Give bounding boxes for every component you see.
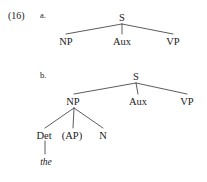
branch-b-np-det <box>45 108 74 128</box>
node-a-vp: VP <box>166 37 179 48</box>
node-b-det: Det <box>36 131 51 142</box>
branch-b-s-vp <box>136 83 187 94</box>
syntax-tree-figure: (16) a. S NP Aux VP b. S NP Aux VP Det (… <box>0 0 207 182</box>
node-b-np: NP <box>66 97 79 108</box>
node-b-n: N <box>99 131 107 142</box>
node-a-np: NP <box>59 37 72 48</box>
item-letter-a: a. <box>40 11 46 20</box>
branch-b-np-ap <box>73 108 74 128</box>
branch-a-s-vp <box>122 24 173 34</box>
node-b-vp: VP <box>180 97 193 108</box>
item-letter-b: b. <box>40 71 46 80</box>
branch-b-np-n <box>74 108 103 128</box>
node-b-aux: Aux <box>129 97 147 108</box>
terminal-word-the: the <box>40 158 52 168</box>
branch-a-s-np <box>66 24 122 34</box>
branch-b-s-np <box>74 83 136 94</box>
node-b-s: S <box>133 72 139 83</box>
node-a-aux: Aux <box>113 37 131 48</box>
tree-branch-lines <box>0 0 207 182</box>
branch-b-s-aux <box>136 83 138 94</box>
node-a-s: S <box>119 13 125 24</box>
node-b-ap-optional: (AP) <box>62 131 82 142</box>
example-number: (16) <box>8 11 25 21</box>
